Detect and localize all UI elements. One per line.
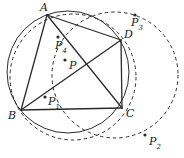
geometry-figure: ABCDPP1P2P3P4 xyxy=(0,0,184,158)
vertex-label-b: B xyxy=(8,110,16,121)
point-label-p3: P3 xyxy=(131,17,143,31)
side-C-D xyxy=(121,40,122,108)
circumcircle xyxy=(7,11,129,133)
point-dot-p2 xyxy=(143,133,146,136)
point-label-p1: P1 xyxy=(48,96,60,110)
vertex-label-c: C xyxy=(126,108,134,119)
dashed-circle-small xyxy=(10,14,136,140)
diagonal-B-D xyxy=(21,40,121,110)
point-dot-p xyxy=(63,58,66,61)
point-label-p4: P4 xyxy=(55,40,67,54)
point-label-p: P xyxy=(69,60,76,71)
point-dot-p1 xyxy=(43,95,46,98)
side-B-C xyxy=(21,108,122,110)
point-label-p2: P2 xyxy=(149,136,161,150)
vertex-label-a: A xyxy=(40,2,48,13)
